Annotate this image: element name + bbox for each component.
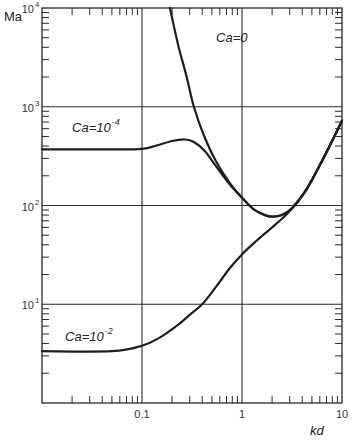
label-layer: 0.1110101102103104Ca=0Ca=10-4Ca=10-2: [22, 0, 348, 420]
series-label: Ca=0: [216, 30, 248, 45]
y-tick-label: 10: [22, 3, 34, 15]
y-tick-label: 10: [22, 102, 34, 114]
series-label: Ca=10: [72, 120, 111, 135]
x-axis-label: kd: [310, 423, 325, 438]
series-label: Ca=10: [65, 329, 104, 344]
y-tick-label-exponent: 1: [35, 296, 40, 305]
series-label-exponent: -4: [112, 117, 120, 127]
series-label-exponent: -2: [105, 326, 113, 336]
x-tick-label: 0.1: [134, 408, 149, 420]
y-tick-label: 10: [22, 299, 34, 311]
curve-layer: [42, 8, 342, 352]
x-tick-label: 10: [336, 408, 348, 420]
y-axis-label: Ma: [4, 9, 23, 24]
y-tick-label-exponent: 3: [35, 99, 40, 108]
y-tick-label: 10: [22, 201, 34, 213]
chart: 0.1110101102103104Ca=0Ca=10-4Ca=10-2 Ma …: [0, 0, 356, 443]
y-tick-label-exponent: 4: [35, 0, 40, 9]
series-curve-ca-10-2: [42, 121, 342, 352]
series-curve-ca-0: [170, 8, 342, 217]
x-tick-label: 1: [239, 408, 245, 420]
y-tick-label-exponent: 2: [35, 198, 40, 207]
